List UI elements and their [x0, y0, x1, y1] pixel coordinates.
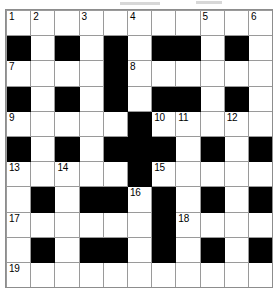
grid-letter-cell[interactable] — [80, 87, 104, 112]
grid-letter-cell[interactable]: 7 — [7, 61, 31, 86]
grid-letter-cell[interactable] — [80, 137, 104, 162]
grid-letter-cell[interactable] — [31, 263, 55, 288]
grid-letter-cell[interactable] — [201, 61, 225, 86]
grid-letter-cell[interactable] — [201, 263, 225, 288]
grid-letter-cell[interactable] — [152, 61, 176, 86]
grid-letter-cell[interactable] — [249, 162, 273, 187]
grid-letter-cell[interactable] — [249, 263, 273, 288]
grid-letter-cell[interactable]: 1 — [7, 11, 31, 36]
grid-block-cell — [104, 137, 128, 162]
grid-letter-cell[interactable]: 17 — [7, 213, 31, 238]
grid-letter-cell[interactable] — [31, 137, 55, 162]
grid-letter-cell[interactable]: 3 — [80, 11, 104, 36]
grid-letter-cell[interactable]: 9 — [7, 112, 31, 137]
grid-letter-cell[interactable] — [55, 213, 79, 238]
grid-letter-cell[interactable] — [225, 213, 249, 238]
grid-letter-cell[interactable] — [80, 61, 104, 86]
grid-letter-cell[interactable] — [80, 263, 104, 288]
grid-letter-cell[interactable] — [225, 238, 249, 263]
grid-letter-cell[interactable] — [104, 162, 128, 187]
grid-letter-cell[interactable] — [152, 11, 176, 36]
grid-letter-cell[interactable] — [225, 11, 249, 36]
grid-letter-cell[interactable] — [201, 36, 225, 61]
grid-letter-cell[interactable] — [176, 11, 200, 36]
grid-letter-cell[interactable]: 19 — [7, 263, 31, 288]
grid-letter-cell[interactable]: 18 — [176, 213, 200, 238]
grid-letter-cell[interactable] — [7, 238, 31, 263]
grid-letter-cell[interactable] — [201, 87, 225, 112]
grid-letter-cell[interactable] — [249, 61, 273, 86]
grid-letter-cell[interactable] — [104, 112, 128, 137]
clue-number: 9 — [9, 112, 14, 124]
clue-number: 1 — [9, 11, 14, 23]
grid-letter-cell[interactable] — [80, 112, 104, 137]
grid-letter-cell[interactable] — [176, 263, 200, 288]
grid-letter-cell[interactable] — [7, 187, 31, 212]
grid-letter-cell[interactable] — [55, 187, 79, 212]
grid-letter-cell[interactable] — [55, 263, 79, 288]
grid-letter-cell[interactable]: 11 — [176, 112, 200, 137]
grid-block-cell — [249, 238, 273, 263]
grid-letter-cell[interactable] — [128, 213, 152, 238]
grid-letter-cell[interactable] — [176, 137, 200, 162]
grid-letter-cell[interactable]: 5 — [201, 11, 225, 36]
clue-number: 8 — [130, 61, 135, 73]
grid-block-cell — [128, 162, 152, 187]
grid-letter-cell[interactable]: 13 — [7, 162, 31, 187]
clue-number: 4 — [130, 11, 135, 23]
grid-letter-cell[interactable] — [104, 11, 128, 36]
grid-letter-cell[interactable] — [104, 213, 128, 238]
grid-letter-cell[interactable] — [201, 213, 225, 238]
grid-letter-cell[interactable] — [80, 213, 104, 238]
grid-block-cell — [31, 238, 55, 263]
grid-letter-cell[interactable] — [104, 263, 128, 288]
grid-letter-cell[interactable] — [31, 162, 55, 187]
grid-letter-cell[interactable] — [55, 11, 79, 36]
grid-letter-cell[interactable] — [31, 213, 55, 238]
grid-letter-cell[interactable]: 14 — [55, 162, 79, 187]
grid-letter-cell[interactable]: 4 — [128, 11, 152, 36]
grid-letter-cell[interactable] — [249, 36, 273, 61]
grid-letter-cell[interactable] — [225, 162, 249, 187]
grid-letter-cell[interactable] — [225, 137, 249, 162]
grid-letter-cell[interactable] — [176, 238, 200, 263]
grid-block-cell — [55, 87, 79, 112]
grid-letter-cell[interactable] — [31, 61, 55, 86]
grid-letter-cell[interactable] — [31, 36, 55, 61]
grid-block-cell — [104, 87, 128, 112]
grid-letter-cell[interactable] — [201, 162, 225, 187]
grid-letter-cell[interactable] — [249, 87, 273, 112]
grid-letter-cell[interactable]: 12 — [225, 112, 249, 137]
crossword-grid[interactable]: 12345678910111213141516171819 — [6, 10, 273, 288]
grid-letter-cell[interactable]: 15 — [152, 162, 176, 187]
grid-letter-cell[interactable]: 6 — [249, 11, 273, 36]
grid-letter-cell[interactable]: 10 — [152, 112, 176, 137]
grid-letter-cell[interactable] — [176, 61, 200, 86]
grid-letter-cell[interactable]: 2 — [31, 11, 55, 36]
grid-letter-cell[interactable] — [176, 162, 200, 187]
grid-letter-cell[interactable] — [249, 112, 273, 137]
grid-letter-cell[interactable] — [80, 162, 104, 187]
grid-letter-cell[interactable] — [128, 36, 152, 61]
grid-letter-cell[interactable]: 8 — [128, 61, 152, 86]
grid-block-cell — [7, 87, 31, 112]
grid-letter-cell[interactable] — [128, 263, 152, 288]
grid-letter-cell[interactable] — [201, 112, 225, 137]
grid-letter-cell[interactable] — [225, 187, 249, 212]
grid-letter-cell[interactable] — [225, 61, 249, 86]
grid-letter-cell[interactable] — [55, 112, 79, 137]
grid-letter-cell[interactable] — [225, 263, 249, 288]
grid-letter-cell[interactable] — [31, 112, 55, 137]
grid-letter-cell[interactable] — [128, 238, 152, 263]
grid-letter-cell[interactable] — [55, 61, 79, 86]
clue-number: 3 — [82, 11, 87, 23]
grid-letter-cell[interactable] — [80, 36, 104, 61]
grid-block-cell — [201, 238, 225, 263]
grid-letter-cell[interactable] — [249, 213, 273, 238]
grid-letter-cell[interactable]: 16 — [128, 187, 152, 212]
grid-letter-cell[interactable] — [31, 87, 55, 112]
grid-letter-cell[interactable] — [152, 263, 176, 288]
grid-letter-cell[interactable] — [55, 238, 79, 263]
grid-letter-cell[interactable] — [176, 187, 200, 212]
grid-letter-cell[interactable] — [128, 87, 152, 112]
